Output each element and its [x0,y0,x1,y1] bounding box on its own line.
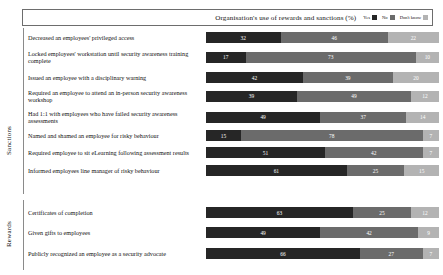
bar-track: 632512 [206,207,439,218]
bar-segment-yes: 63 [206,207,353,218]
bar-track: 49429 [206,227,439,238]
row-label: Had 1:1 with employees who have failed s… [24,110,206,125]
bar-track: 493714 [206,112,439,123]
table-row: Certificates of completion632512 [24,207,439,218]
bar-segment-no: 78 [241,130,423,141]
bar-segment-don-t-know: 10 [416,52,439,63]
row-label: Publicly recognized an employee as a sec… [24,250,206,257]
bar-track: 15787 [206,130,439,141]
row-label: Given gifts to employees [24,229,206,236]
bar-segment-don-t-know: 7 [423,130,439,141]
bar-track: 177310 [206,52,439,63]
bar-segment-don-t-know: 12 [411,207,439,218]
bar-track: 324622 [206,32,439,43]
chart-legend-box: Organisation's use of rewards and sancti… [22,9,433,26]
table-row: Informed employees line manager of risky… [24,165,439,176]
bar-segment-no: 49 [297,91,411,102]
stacked-bar-chart: Organisation's use of rewards and sancti… [0,0,443,275]
legend-label-yes: Yes [363,15,370,20]
table-row: Required employee to sit eLearning follo… [24,147,439,158]
row-label: Decreased an employees' privileged acces… [24,34,206,41]
bar-track: 423920 [206,72,439,83]
bar-segment-yes: 49 [206,112,320,123]
bar-segment-yes: 39 [206,91,297,102]
bar-track: 394912 [206,91,439,102]
bar-segment-yes: 51 [206,147,325,158]
group-label-sanctions: Sanctions [5,92,13,188]
legend-label-dont-know: Don't know [400,15,421,20]
row-label: Required an employee to attend an in-per… [24,89,206,104]
legend-label-no: No [382,15,388,20]
table-row: Required an employee to attend an in-per… [24,89,439,104]
bar-segment-don-t-know: 7 [423,248,439,259]
group-label-rewards: Rewards [5,206,13,262]
row-label: Issued an employee with a disciplinary w… [24,74,206,81]
row-label: Required employee to sit eLearning follo… [24,149,206,156]
legend-swatch-yes [372,15,377,20]
bar-segment-yes: 66 [206,248,360,259]
bar-segment-yes: 15 [206,130,241,141]
table-row: Issued an employee with a disciplinary w… [24,72,439,83]
bar-segment-don-t-know: 12 [411,91,439,102]
bar-segment-no: 42 [320,227,418,238]
table-row: Decreased an employees' privileged acces… [24,32,439,43]
table-row: Locked employees' workstation until secu… [24,50,439,65]
bar-segment-don-t-know: 14 [406,112,439,123]
bar-track: 51427 [206,147,439,158]
bar-segment-don-t-know: 9 [418,227,439,238]
bar-segment-no: 39 [303,72,393,83]
bar-segment-yes: 42 [206,72,303,83]
legend-entry-no: No [382,15,395,20]
bar-segment-don-t-know: 22 [388,32,439,43]
table-row: Named and shamed an employee for risky b… [24,130,439,141]
bar-segment-no: 73 [246,52,416,63]
bar-track: 66277 [206,248,439,259]
table-row: Publicly recognized an employee as a sec… [24,248,439,259]
legend-entry-dont-know: Don't know [400,15,428,20]
bar-segment-yes: 49 [206,227,320,238]
bar-segment-no: 27 [360,248,423,259]
table-row: Had 1:1 with employees who have failed s… [24,110,439,125]
bar-segment-yes: 32 [206,32,281,43]
row-label: Informed employees line manager of risky… [24,167,206,174]
chart-title: Organisation's use of rewards and sancti… [215,14,356,22]
row-label: Certificates of completion [24,209,206,216]
row-label: Locked employees' workstation until secu… [24,50,206,65]
legend-entry-yes: Yes [363,15,377,20]
bar-segment-no: 37 [320,112,406,123]
bar-segment-don-t-know: 20 [393,72,439,83]
bar-track: 612515 [206,165,439,176]
bar-segment-no: 25 [347,165,405,176]
legend-items: Yes No Don't know [363,15,428,20]
bar-segment-no: 46 [281,32,388,43]
bar-segment-don-t-know: 7 [423,147,439,158]
bar-segment-yes: 17 [206,52,246,63]
legend-swatch-dont-know [423,15,428,20]
bar-segment-yes: 61 [206,165,347,176]
bar-segment-no: 42 [325,147,423,158]
row-label: Named and shamed an employee for risky b… [24,132,206,139]
legend-swatch-no [390,15,395,20]
bar-segment-no: 25 [353,207,411,218]
bar-segment-don-t-know: 15 [404,165,439,176]
table-row: Given gifts to employees49429 [24,227,439,238]
